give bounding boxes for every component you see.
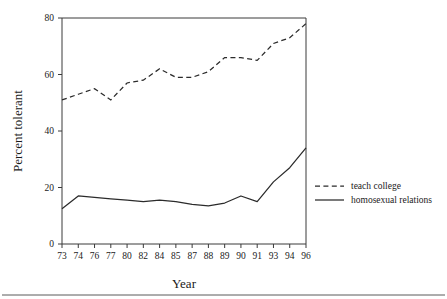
y-axis-ticks [58,18,62,244]
x-tick-label: 94 [285,251,295,261]
x-axis-title: Year [172,276,197,291]
series-line-teach-college [62,24,306,100]
chart-legend: teach college homosexual relations [315,181,432,205]
x-tick-label: 73 [57,251,67,261]
y-axis-tick-labels: 020406080 [45,13,55,249]
plot-frame [62,18,306,244]
x-axis-ticks [62,244,306,248]
y-axis-title: Percent tolerant [10,90,25,172]
y-tick-label: 60 [45,70,55,80]
chart-figure: 020406080 737476778082848587888990919394… [0,0,447,299]
x-axis-tick-labels: 73747677808284858788899091939496 [57,251,311,261]
x-tick-label: 87 [187,251,197,261]
x-tick-label: 82 [139,251,149,261]
x-tick-label: 76 [90,251,100,261]
data-series-group [62,24,306,209]
y-tick-label: 40 [45,126,55,136]
x-tick-label: 96 [301,251,311,261]
plot-border [62,18,306,244]
x-tick-label: 85 [171,251,181,261]
x-tick-label: 74 [74,251,84,261]
line-chart: 020406080 737476778082848587888990919394… [0,0,447,299]
y-tick-label: 80 [45,13,55,23]
y-tick-label: 0 [49,239,54,249]
x-tick-label: 91 [252,251,262,261]
x-tick-label: 88 [204,251,214,261]
x-tick-label: 80 [122,251,132,261]
x-tick-label: 77 [106,251,116,261]
legend-label-teach-college: teach college [351,181,401,191]
x-tick-label: 89 [220,251,230,261]
series-line-homosexual-relations [62,148,306,209]
x-tick-label: 84 [155,251,165,261]
legend-label-homosexual-relations: homosexual relations [351,195,432,205]
x-tick-label: 93 [269,251,279,261]
x-tick-label: 90 [236,251,246,261]
y-tick-label: 20 [45,183,55,193]
